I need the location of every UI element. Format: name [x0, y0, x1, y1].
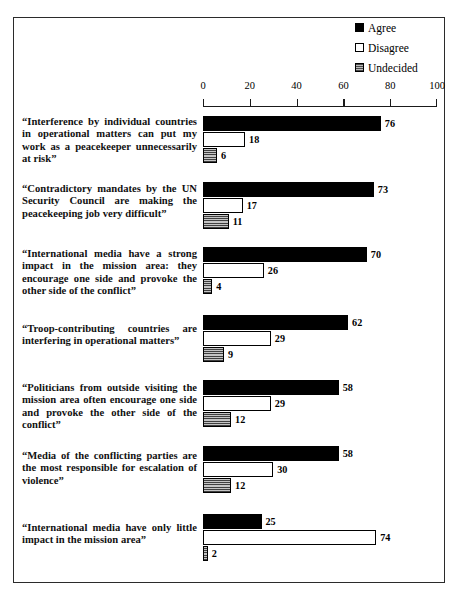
bar-stack: 731711 [203, 182, 453, 230]
bar-undecided[interactable] [203, 412, 231, 427]
x-axis-tick-label: 100 [429, 80, 445, 92]
bar-row: 6 [203, 148, 453, 163]
bar-row: 12 [203, 412, 453, 427]
bar-disagree[interactable] [203, 462, 273, 477]
x-axis-tick-label: 40 [291, 80, 302, 92]
bar-stack: 583012 [203, 446, 453, 494]
bar-undecided[interactable] [203, 148, 217, 163]
bar-row: 30 [203, 462, 453, 477]
category-label: “Media of the conflicting parties are th… [22, 450, 197, 487]
x-axis-line [203, 106, 437, 107]
chart-page: AgreeDisagreeUndecided 020406080100 “Int… [0, 0, 459, 600]
bar-undecided[interactable] [203, 546, 208, 561]
bar-undecided[interactable] [203, 478, 231, 493]
bar-disagree[interactable] [203, 331, 271, 346]
bar-row: 17 [203, 198, 453, 213]
category-label: “Contradictory mandates by the UN Securi… [22, 183, 197, 220]
bar-row: 58 [203, 446, 453, 461]
bar-row: 12 [203, 478, 453, 493]
bar-row: 25 [203, 514, 453, 529]
bar-agree[interactable] [203, 315, 348, 330]
bar-agree[interactable] [203, 247, 367, 262]
bar-value-label: 30 [277, 463, 287, 476]
bar-disagree[interactable] [203, 396, 271, 411]
legend-item-agree[interactable]: Agree [355, 19, 437, 36]
bar-row: 74 [203, 530, 453, 545]
bar-row: 62 [203, 315, 453, 330]
bar-value-label: 73 [378, 183, 388, 196]
bar-row: 11 [203, 214, 453, 229]
bar-value-label: 26 [268, 264, 278, 277]
bar-disagree[interactable] [203, 263, 264, 278]
bar-row: 70 [203, 247, 453, 262]
bar-disagree[interactable] [203, 198, 243, 213]
category-label: “Interference by individual countries in… [22, 116, 197, 166]
bar-value-label: 17 [247, 199, 257, 212]
bar-value-label: 76 [385, 117, 395, 130]
bar-value-label: 6 [221, 149, 226, 162]
bar-stack: 25742 [203, 514, 453, 562]
x-axis-tick-label: 60 [338, 80, 349, 92]
bar-agree[interactable] [203, 446, 339, 461]
filled-square-icon [355, 23, 364, 32]
chart-groups: “Interference by individual countries in… [0, 112, 459, 582]
chart-legend: AgreeDisagreeUndecided [355, 19, 437, 79]
bar-row: 18 [203, 132, 453, 147]
legend-item-label: Disagree [368, 42, 409, 54]
bar-row: 9 [203, 347, 453, 362]
bar-stack: 70264 [203, 247, 453, 295]
bar-row: 73 [203, 182, 453, 197]
x-axis-endcap-left [203, 99, 204, 107]
bar-stack: 76186 [203, 116, 453, 164]
bar-value-label: 12 [235, 479, 245, 492]
x-axis-tick-label: 20 [245, 80, 256, 92]
bar-value-label: 58 [343, 447, 353, 460]
bar-agree[interactable] [203, 116, 381, 131]
bar-value-label: 4 [216, 280, 221, 293]
category-label: “Politicians from outside visiting the m… [22, 382, 197, 432]
bar-value-label: 70 [371, 248, 381, 261]
x-axis-endcap-right [436, 99, 437, 107]
bar-value-label: 9 [228, 348, 233, 361]
x-axis-tick-label: 80 [385, 80, 396, 92]
bar-row: 29 [203, 331, 453, 346]
bar-agree[interactable] [203, 514, 262, 529]
bar-value-label: 18 [249, 133, 259, 146]
bar-row: 2 [203, 546, 453, 561]
bar-agree[interactable] [203, 380, 339, 395]
bar-value-label: 62 [352, 316, 362, 329]
bar-value-label: 74 [380, 531, 390, 544]
x-axis-tick [250, 99, 251, 107]
bar-stack: 62299 [203, 315, 453, 363]
bar-row: 4 [203, 279, 453, 294]
legend-item-label: Undecided [368, 62, 418, 74]
x-axis-tick [343, 99, 344, 107]
x-axis-tick [297, 99, 298, 107]
bar-row: 58 [203, 380, 453, 395]
bar-row: 76 [203, 116, 453, 131]
hatched-square-icon [355, 63, 364, 72]
bar-value-label: 29 [275, 332, 285, 345]
bar-undecided[interactable] [203, 214, 229, 229]
legend-item-disagree[interactable]: Disagree [355, 39, 437, 56]
bar-undecided[interactable] [203, 279, 212, 294]
x-axis-tick-labels: 020406080100 [203, 80, 437, 94]
bar-undecided[interactable] [203, 347, 224, 362]
bar-value-label: 25 [266, 515, 276, 528]
bar-value-label: 12 [235, 413, 245, 426]
legend-item-label: Agree [368, 22, 396, 34]
x-axis-tick-label: 0 [200, 80, 205, 92]
bar-value-label: 2 [212, 547, 217, 560]
category-label: “Troop-contributing countries are interf… [22, 323, 197, 348]
bar-row: 26 [203, 263, 453, 278]
x-axis-tick [390, 99, 391, 107]
hollow-square-icon [355, 43, 364, 52]
bar-stack: 582912 [203, 380, 453, 428]
bar-value-label: 58 [343, 381, 353, 394]
bar-agree[interactable] [203, 182, 374, 197]
bar-value-label: 29 [275, 397, 285, 410]
legend-item-undecided[interactable]: Undecided [355, 59, 437, 76]
bar-disagree[interactable] [203, 530, 376, 545]
category-label: “International media have only little im… [22, 522, 197, 547]
bar-disagree[interactable] [203, 132, 245, 147]
